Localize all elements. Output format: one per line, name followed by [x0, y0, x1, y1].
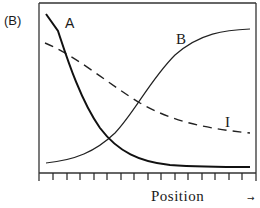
curve-b	[46, 29, 250, 163]
arrow-right-icon: →	[247, 193, 255, 203]
curve-i-label: I	[225, 114, 230, 130]
curve-i	[45, 43, 250, 133]
x-axis-ticks	[53, 173, 242, 180]
curve-b-label: B	[176, 31, 186, 47]
chart-plot: A B I	[0, 0, 260, 208]
curve-a-label: A	[65, 15, 75, 31]
curve-a	[46, 14, 250, 167]
x-axis-label: Position	[151, 188, 204, 205]
